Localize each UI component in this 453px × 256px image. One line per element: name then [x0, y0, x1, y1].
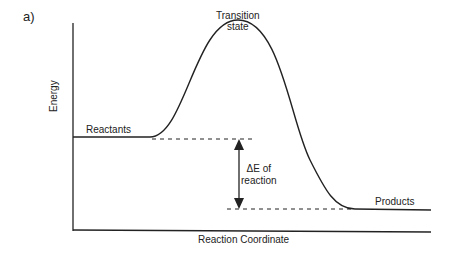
delta-e-line1: ΔE of — [241, 163, 277, 175]
products-label: Products — [375, 196, 414, 207]
y-axis-label: Energy — [48, 80, 59, 112]
arrow-down-icon — [234, 198, 244, 209]
x-axis-label: Reaction Coordinate — [198, 234, 289, 245]
x-axis — [73, 230, 431, 232]
transition-state-line2: state — [216, 21, 260, 32]
transition-state-label: Transition state — [216, 10, 260, 32]
reactants-label: Reactants — [86, 124, 131, 135]
delta-e-label: ΔE of reaction — [241, 163, 277, 187]
transition-state-line1: Transition — [216, 10, 260, 21]
energy-diagram — [0, 0, 453, 256]
arrow-up-icon — [234, 139, 244, 150]
panel-label: a) — [23, 9, 35, 24]
delta-e-line2: reaction — [241, 175, 277, 187]
